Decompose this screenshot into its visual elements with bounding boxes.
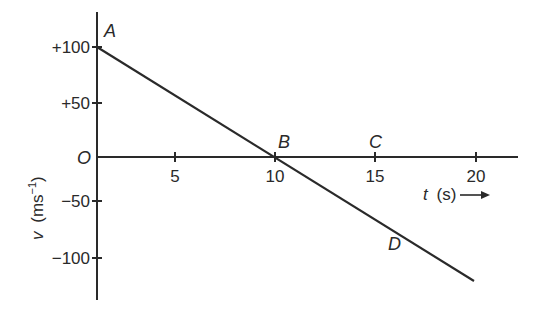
x-axis-label-t: t	[423, 185, 429, 204]
y-tick-label-100: +100	[52, 38, 90, 57]
point-label-a: A	[103, 21, 116, 41]
x-axis-label: t (s)	[423, 185, 456, 204]
y-tick-label-50: +50	[61, 94, 90, 113]
x-axis-label-unit: (s)	[436, 185, 456, 204]
y-axis-label: v (ms−1)	[26, 176, 47, 240]
x-tick-label-5: 5	[170, 167, 179, 186]
velocity-time-graph: +100 +50 −50 −100 O 5 10 15 20 A B C D t…	[0, 0, 541, 327]
x-tick-label-10: 10	[266, 167, 285, 186]
origin-label: O	[77, 148, 91, 168]
point-label-d: D	[388, 234, 401, 254]
y-tick-label-neg50: −50	[61, 192, 90, 211]
y-axis-label-close: )	[28, 176, 47, 182]
y-axis-label-v: v	[28, 230, 47, 240]
y-axis-label-sup: −1	[26, 182, 38, 195]
point-label-b: B	[278, 132, 290, 152]
arrow-right-icon	[460, 191, 490, 199]
y-axis-label-unit: (ms	[28, 194, 47, 222]
point-label-c: C	[369, 132, 383, 152]
velocity-line	[97, 47, 474, 281]
x-tick-label-15: 15	[366, 167, 385, 186]
x-tick-label-20: 20	[467, 167, 486, 186]
y-tick-label-neg100: −100	[52, 249, 90, 268]
